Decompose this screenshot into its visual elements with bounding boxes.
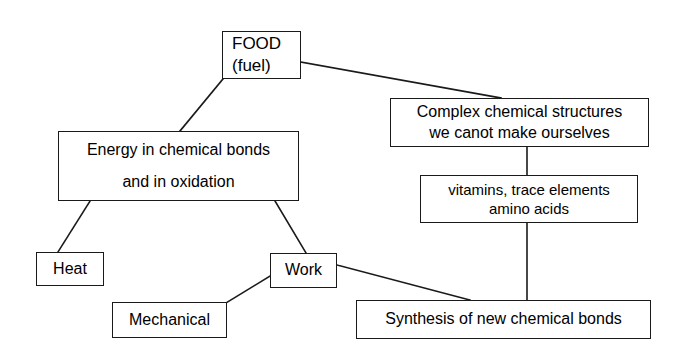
- node-food-line-1: FOOD: [232, 33, 281, 55]
- node-synthesis-of-new-chemical-bonds[interactable]: Synthesis of new chemical bonds: [356, 300, 651, 339]
- node-mechanical[interactable]: Mechanical: [112, 302, 227, 338]
- diagram-canvas: FOOD (fuel) Complex chemical structures …: [0, 0, 675, 355]
- node-food-line-2: (fuel): [232, 55, 271, 77]
- node-energy-line-2: and in oxidation: [122, 166, 234, 198]
- node-work[interactable]: Work: [270, 253, 337, 288]
- node-energy-in-chemical-bonds[interactable]: Energy in chemical bonds and in oxidatio…: [58, 131, 299, 201]
- edge-work-to-synthesis: [337, 265, 470, 300]
- node-complex-line-2: we canot make ourselves: [429, 123, 610, 143]
- node-complex-chemical-structures[interactable]: Complex chemical structures we canot mak…: [390, 98, 649, 147]
- node-vitamins-trace-elements[interactable]: vitamins, trace elements amino acids: [420, 175, 638, 223]
- node-synthesis-label: Synthesis of new chemical bonds: [385, 309, 622, 329]
- node-vitamins-line-2: amino acids: [489, 199, 569, 218]
- edge-energy-to-heat: [58, 201, 90, 252]
- node-vitamins-line-1: vitamins, trace elements: [448, 180, 610, 199]
- node-food[interactable]: FOOD (fuel): [222, 31, 301, 79]
- node-work-label: Work: [285, 260, 322, 280]
- node-complex-line-1: Complex chemical structures: [417, 102, 622, 122]
- node-mechanical-label: Mechanical: [129, 310, 210, 330]
- node-heat-label: Heat: [53, 259, 87, 279]
- edge-energy-to-work: [275, 201, 306, 253]
- edge-work-to-mechanical: [226, 276, 270, 303]
- node-heat[interactable]: Heat: [36, 252, 104, 286]
- edge-food-to-energy: [180, 79, 223, 131]
- node-energy-line-1: Energy in chemical bonds: [87, 134, 270, 166]
- edge-food-to-complex: [301, 62, 501, 98]
